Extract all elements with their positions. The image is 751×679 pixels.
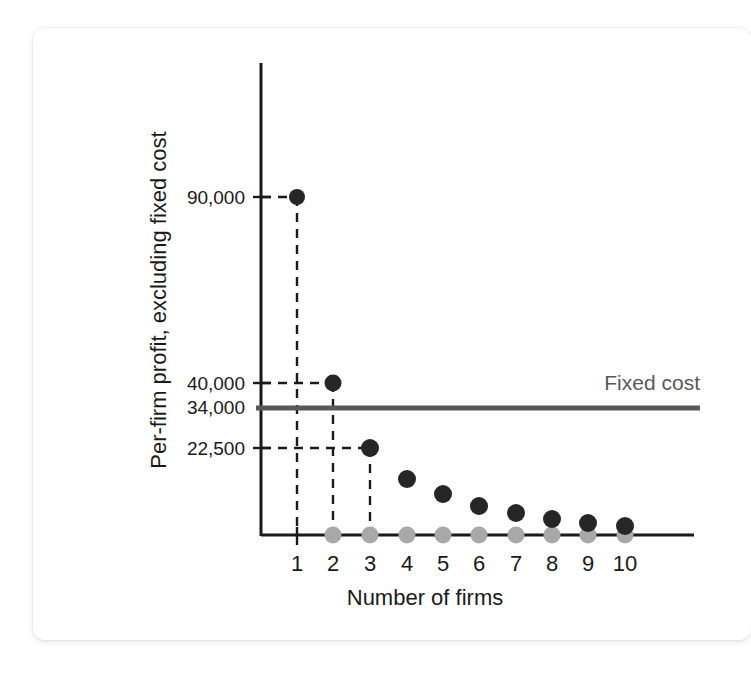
chart-svg: Fixed cost	[0, 0, 751, 679]
profit-dot-10	[616, 517, 634, 535]
baseline-dot-3	[362, 527, 379, 544]
x-tick-label-10: 10	[613, 551, 637, 576]
x-tick-label-9: 9	[582, 551, 594, 576]
x-tick-label-7: 7	[510, 551, 522, 576]
profit-dot-2	[325, 375, 342, 392]
fixed-cost-label: Fixed cost	[604, 371, 700, 394]
profit-dot-4	[398, 470, 416, 488]
chart-figure: Fixed cost	[0, 0, 751, 679]
y-axis-title: Per-firm profit, excluding fixed cost	[146, 131, 171, 468]
baseline-dot-7	[508, 527, 525, 544]
y-tick-label-40000: 40,000	[187, 373, 245, 394]
x-tick-label-5: 5	[437, 551, 449, 576]
baseline-dot-5	[435, 527, 452, 544]
baseline-dot-2	[325, 527, 342, 544]
y-tick-label-90000: 90,000	[187, 187, 245, 208]
baseline-dot-4	[399, 527, 416, 544]
leader-lines-group	[262, 197, 370, 535]
profit-dot-8	[543, 510, 561, 528]
x-axis-title: Number of firms	[347, 585, 503, 610]
profit-dot-3	[361, 439, 379, 457]
y-tick-label-22500: 22,500	[187, 438, 245, 459]
y-tick-label-34000: 34,000	[187, 397, 245, 418]
fixed-cost-reference-line-group: Fixed cost	[256, 371, 700, 408]
profit-dot-9	[579, 514, 597, 532]
profit-dot-6	[470, 497, 488, 515]
x-tick-label-4: 4	[401, 551, 413, 576]
x-tick-label-1: 1	[291, 551, 303, 576]
x-tick-labels-group: 1 2 3 4 5 6 7 8 9 10	[291, 551, 637, 576]
page-root: Fixed cost	[0, 0, 751, 679]
y-tick-labels-group: 90,000 40,000 34,000 22,500	[187, 187, 245, 459]
x-tick-label-6: 6	[473, 551, 485, 576]
x-tick-label-8: 8	[546, 551, 558, 576]
axes-group	[261, 63, 694, 536]
profit-dot-5	[434, 485, 452, 503]
profit-dot-1	[289, 189, 305, 205]
x-tick-label-3: 3	[364, 551, 376, 576]
baseline-dot-6	[471, 527, 488, 544]
x-tick-label-2: 2	[327, 551, 339, 576]
profit-dot-7	[507, 504, 525, 522]
baseline-dot-8	[544, 527, 561, 544]
profit-dots-group	[289, 189, 634, 535]
